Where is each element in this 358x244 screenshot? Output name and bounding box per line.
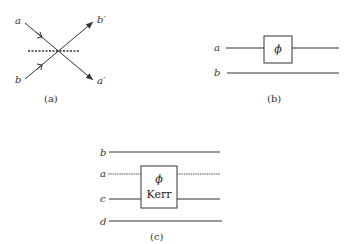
label-a: a [214,42,220,53]
panel-a-beamsplitter: a b b′ a′ (a) [15,14,106,104]
caption-b: (b) [267,93,281,104]
caption-c: (c) [150,231,164,242]
caption-a: (a) [44,93,58,104]
label-c: c [100,193,106,204]
label-a: a [15,15,21,26]
arrow-b-icon [36,64,42,70]
panel-c-kerr: b a c ϕ Kerr d (c) [100,147,222,242]
arrow-a-icon [36,32,42,38]
label-b: b [214,67,220,78]
label-a: a [100,168,106,179]
label-b-prime: b′ [97,14,106,25]
panel-b-phase-shifter: a ϕ b (b) [214,36,339,104]
phase-label: ϕ [274,43,282,56]
label-a-prime: a′ [97,75,106,86]
diagram-canvas: a b b′ a′ (a) a ϕ b (b) b a c ϕ Kerr d (… [0,0,358,244]
kerr-label: Kerr [147,188,173,201]
kerr-phase-label: ϕ [155,173,163,186]
label-b: b [15,74,21,85]
label-b: b [100,147,106,158]
label-d: d [100,216,106,227]
